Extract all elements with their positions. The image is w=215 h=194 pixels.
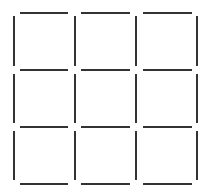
matchstick-grid: [0, 0, 215, 194]
